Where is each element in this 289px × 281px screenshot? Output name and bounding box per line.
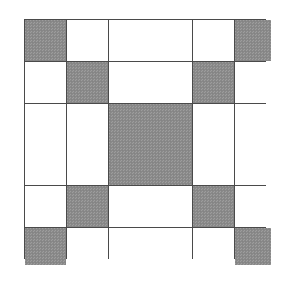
- quilt-cell-r3c4: [193, 104, 234, 185]
- quilt-cell-r3c5: [235, 104, 271, 185]
- quilt-cell-r4c5: [235, 186, 271, 227]
- quilt-grid: [24, 19, 266, 259]
- quilt-cell-r1c2: [67, 20, 108, 61]
- quilt-cell-r2c4: [193, 62, 234, 103]
- quilt-cell-r4c2: [67, 186, 108, 227]
- quilt-cell-r4c4: [193, 186, 234, 227]
- quilt-cell-r3c3: [109, 104, 192, 185]
- quilt-cell-r5c5: [235, 228, 271, 265]
- quilt-cell-r5c1: [25, 228, 66, 265]
- quilt-cell-r5c2: [67, 228, 108, 265]
- quilt-cell-r4c1: [25, 186, 66, 227]
- quilt-cell-r2c5: [235, 62, 271, 103]
- quilt-cell-r2c3: [109, 62, 192, 103]
- quilt-cell-r5c4: [193, 228, 234, 265]
- quilt-cell-r2c2: [67, 62, 108, 103]
- quilt-cell-r5c3: [109, 228, 192, 265]
- quilt-cell-r1c5: [235, 20, 271, 61]
- quilt-cell-r4c3: [109, 186, 192, 227]
- quilt-cell-r1c4: [193, 20, 234, 61]
- quilt-cell-r1c3: [109, 20, 192, 61]
- quilt-cell-r2c1: [25, 62, 66, 103]
- quilt-cell-r1c1: [25, 20, 66, 61]
- quilt-cell-r3c1: [25, 104, 66, 185]
- quilt-cell-r3c2: [67, 104, 108, 185]
- figure-canvas: [0, 0, 289, 281]
